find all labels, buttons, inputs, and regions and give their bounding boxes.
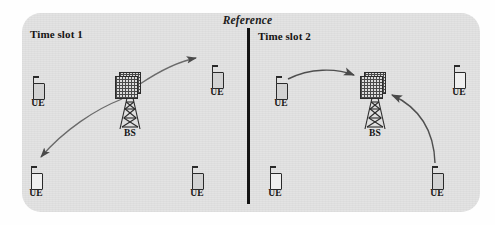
slot-title-2: Time slot 2 — [258, 30, 311, 42]
tower-mast-icon — [362, 98, 388, 130]
ue-icon-slot2-bottom-right[interactable]: UE — [424, 166, 450, 199]
figure-root: Reference Time slot 1 UE UE — [0, 0, 495, 225]
ue-handset-icon — [209, 65, 225, 87]
ue-handset-icon — [429, 166, 445, 188]
tower-mast-icon — [117, 98, 143, 130]
ue-icon-slot2-bottom-left[interactable]: UE — [262, 166, 288, 199]
ue-handset-icon — [30, 76, 46, 98]
ue-icon-slot1-bottom-left[interactable]: UE — [23, 166, 49, 199]
ue-icon-slot2-left[interactable]: UE — [268, 76, 294, 109]
ue-handset-icon — [267, 166, 283, 188]
vertical-divider — [247, 28, 250, 204]
antenna-panel-icon — [114, 72, 146, 98]
ue-icon-slot2-top-right[interactable]: UE — [446, 65, 472, 98]
antenna-panel-icon — [359, 72, 391, 98]
ue-handset-icon — [451, 65, 467, 87]
base-station-icon-slot1[interactable]: BS — [105, 72, 155, 139]
ue-icon-slot1-left[interactable]: UE — [25, 76, 51, 109]
ue-handset-icon — [189, 166, 205, 188]
ue-icon-slot1-top-right[interactable]: UE — [204, 65, 230, 98]
base-station-icon-slot2[interactable]: BS — [350, 72, 400, 139]
figure-title: Reference — [0, 14, 495, 26]
figure-panel — [22, 13, 480, 212]
slot-title-1: Time slot 1 — [30, 28, 83, 40]
ue-handset-icon — [28, 166, 44, 188]
ue-handset-icon — [273, 76, 289, 98]
ue-icon-slot1-bottom-mid[interactable]: UE — [184, 166, 210, 199]
